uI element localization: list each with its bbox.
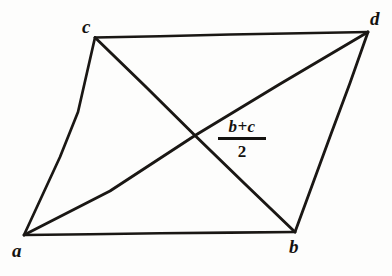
vertex-label-b: b (289, 237, 299, 256)
vertex-label-d: d (370, 9, 380, 28)
parallelogram-figure: a b c d b+c 2 (0, 0, 392, 276)
vertex-label-a: a (12, 241, 22, 260)
fraction-denominator: 2 (238, 140, 247, 160)
diagonal-a-d (24, 32, 368, 235)
vertex-label-c: c (82, 17, 90, 36)
midpoint-fraction-label: b+c 2 (218, 118, 266, 160)
fraction-numerator: b+c (226, 118, 257, 137)
edge-a-b (25, 232, 296, 235)
edge-c-d (95, 32, 368, 38)
edge-b-d (295, 32, 368, 232)
figure-canvas (0, 0, 392, 276)
